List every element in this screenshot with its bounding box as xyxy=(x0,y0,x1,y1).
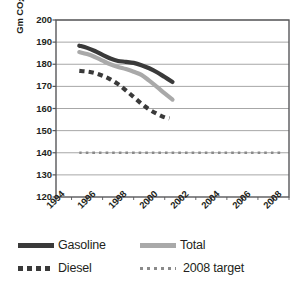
legend-swatch-2008-target-icon xyxy=(140,267,176,270)
legend-swatch-diesel-icon xyxy=(18,266,54,271)
chart-legend: Gasoline Total Diesel 2008 target xyxy=(0,234,305,284)
series-line-diesel xyxy=(79,71,169,119)
legend-label-total: Total xyxy=(180,238,205,252)
legend-label-diesel: Diesel xyxy=(58,261,92,275)
legend-item-gasoline[interactable]: Gasoline xyxy=(18,234,106,256)
legend-label-gasoline: Gasoline xyxy=(58,238,106,252)
co2-emissions-line-chart: Gm CO2 per vehicle-km 200190180170160150… xyxy=(0,0,305,284)
legend-swatch-total-icon xyxy=(140,243,176,248)
legend-label-2008-target: 2008 target xyxy=(183,261,244,275)
legend-item-diesel[interactable]: Diesel xyxy=(18,257,92,279)
series-line-total xyxy=(79,52,172,100)
legend-row-1: Gasoline Total xyxy=(0,234,305,256)
legend-item-2008-target[interactable]: 2008 target xyxy=(134,257,244,279)
legend-row-2: Diesel 2008 target xyxy=(0,257,305,279)
legend-swatch-gasoline-icon xyxy=(18,243,54,248)
legend-item-total[interactable]: Total xyxy=(140,234,205,256)
